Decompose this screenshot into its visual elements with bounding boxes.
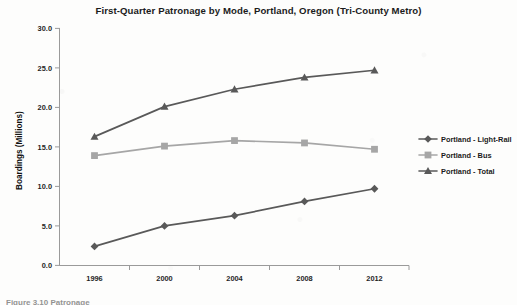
- diamond-marker: [301, 198, 309, 206]
- y-tick-label: 0.0: [42, 261, 52, 270]
- y-tick-label: 5.0: [42, 222, 52, 231]
- legend-item-bus[interactable]: Portland - Bus: [419, 151, 492, 160]
- square-marker: [371, 146, 378, 153]
- square-icon: [425, 152, 432, 159]
- x-tick-label: 2000: [156, 274, 172, 283]
- square-marker: [161, 143, 168, 150]
- legend-item-light-rail[interactable]: Portland - Light-Rail: [419, 135, 512, 144]
- y-tick-label: 30.0: [38, 24, 52, 33]
- diamond-marker: [91, 243, 99, 251]
- chart-legend: Portland - Light-Rail Portland - Bus Por…: [419, 135, 512, 176]
- diamond-marker: [161, 222, 169, 230]
- series-line: [95, 70, 375, 136]
- chart-svg: Boardings (Millions) 30.0 25.0 20.0 15.0…: [0, 0, 517, 305]
- series-portland-bus: [91, 137, 378, 159]
- legend-label: Portland - Total: [441, 167, 495, 176]
- x-axis-labels: 1996 2000 2004 2008 2012: [86, 274, 382, 283]
- square-marker: [91, 152, 98, 159]
- y-tick-label: 25.0: [38, 64, 52, 73]
- y-tick-label: 15.0: [38, 143, 52, 152]
- x-tick-label: 2012: [366, 274, 382, 283]
- square-marker: [231, 137, 238, 144]
- series-portland-total: [91, 66, 379, 140]
- x-tick-label: 2008: [296, 274, 312, 283]
- legend-item-total[interactable]: Portland - Total: [419, 167, 495, 176]
- x-tick-label: 2004: [226, 274, 243, 283]
- y-tick-label: 20.0: [38, 103, 52, 112]
- chart-plot-area: Boardings (Millions) 30.0 25.0 20.0 15.0…: [0, 0, 517, 305]
- diamond-marker: [231, 212, 239, 220]
- figure-caption: Figure 3.10 Patronage: [6, 298, 90, 305]
- series-portland-light-rail: [91, 185, 379, 250]
- legend-label: Portland - Bus: [441, 151, 492, 160]
- diamond-marker: [371, 185, 379, 193]
- y-axis-title: Boardings (Millions): [15, 111, 24, 190]
- y-axis-ticks: 30.0 25.0 20.0 15.0 10.0 5.0 0.0: [38, 24, 60, 270]
- series-layer: [91, 66, 379, 250]
- x-axis-ticks: [130, 266, 410, 271]
- legend-label: Portland - Light-Rail: [441, 135, 512, 144]
- x-tick-label: 1996: [86, 274, 102, 283]
- y-tick-label: 10.0: [38, 182, 52, 191]
- diamond-icon: [424, 135, 432, 143]
- square-marker: [301, 140, 308, 147]
